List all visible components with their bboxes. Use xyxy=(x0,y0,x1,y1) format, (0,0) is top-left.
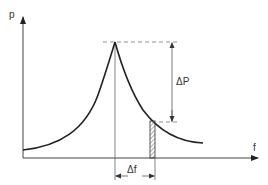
resonance-diagram: p f ΔP Δf xyxy=(0,0,268,185)
delta-p-label: ΔP xyxy=(176,76,190,87)
resonance-curve-left xyxy=(23,42,115,150)
x-axis-label: f xyxy=(253,142,256,153)
resonance-curve-right xyxy=(115,42,203,143)
delta-f-label: Δf xyxy=(127,164,137,175)
hatched-bandwidth-area xyxy=(150,121,155,158)
y-axis-label: p xyxy=(9,9,15,20)
